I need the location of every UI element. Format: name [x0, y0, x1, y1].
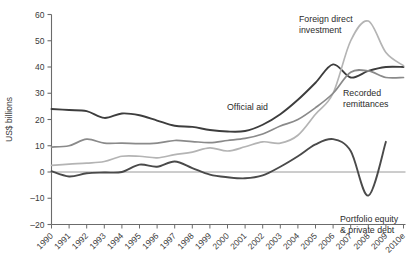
x-tick-label: 2005: [298, 231, 319, 252]
y-axis-title-label: US$ billions: [4, 97, 14, 142]
series-annotation-label: Recorded: [343, 88, 381, 98]
y-tick-label: –10: [30, 193, 44, 203]
x-tick-label: 2004: [281, 231, 302, 252]
series-line: [52, 139, 386, 196]
x-tick-label: 1997: [158, 231, 179, 252]
x-tick-label: 1995: [122, 231, 143, 252]
series-annotations: Official aidForeign directinvestmentReco…: [227, 14, 399, 235]
x-tick-label: 2002: [246, 231, 267, 252]
chart-container: –20–100102030405060 19901991199219931994…: [0, 0, 417, 263]
y-tick-label: 40: [35, 62, 45, 72]
x-tick-label: 2000: [210, 231, 231, 252]
x-tick-label: 1991: [52, 231, 73, 252]
y-tick-label: 50: [35, 36, 45, 46]
y-tick-label: –20: [30, 220, 44, 230]
series-annotation-label: Portfolio equity: [340, 214, 399, 224]
x-tick-label: 2001: [228, 231, 249, 252]
series-annotation-label: remittances: [343, 99, 389, 109]
x-tick-label: 1994: [105, 231, 126, 252]
y-tick-label: 20: [35, 115, 45, 125]
x-tick-label: 2006: [316, 231, 337, 252]
x-tick-label: 1990: [34, 231, 55, 252]
x-tick-label: 1996: [140, 231, 161, 252]
x-tick-label: 1992: [70, 231, 91, 252]
x-tick-label: 1993: [87, 231, 108, 252]
y-tick-label: 10: [35, 141, 45, 151]
y-tick-label: 0: [40, 167, 45, 177]
series-annotation-label: & private debt: [340, 225, 395, 235]
series-annotation-label: Foreign direct: [299, 14, 353, 24]
x-tick-label: 2003: [263, 231, 284, 252]
y-axis-title: US$ billions: [4, 97, 14, 142]
y-axis: –20–100102030405060: [30, 10, 51, 230]
x-tick-label: 1998: [175, 231, 196, 252]
series-annotation-label: Official aid: [227, 102, 268, 112]
y-tick-label: 30: [35, 88, 45, 98]
line-chart: –20–100102030405060 19901991199219931994…: [0, 0, 417, 263]
x-tick-label: 1999: [193, 231, 214, 252]
series-annotation-label: investment: [299, 25, 342, 35]
y-tick-label: 60: [35, 10, 45, 20]
